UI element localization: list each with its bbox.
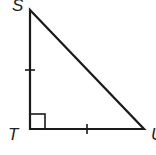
- triangle-diagram: S T U: [0, 0, 156, 155]
- vertex-label-s: S: [12, 0, 24, 15]
- right-angle-marker: [30, 114, 45, 129]
- vertex-label-u: U: [151, 125, 156, 144]
- vertex-label-t: T: [8, 125, 20, 144]
- triangle-stu: [30, 10, 144, 129]
